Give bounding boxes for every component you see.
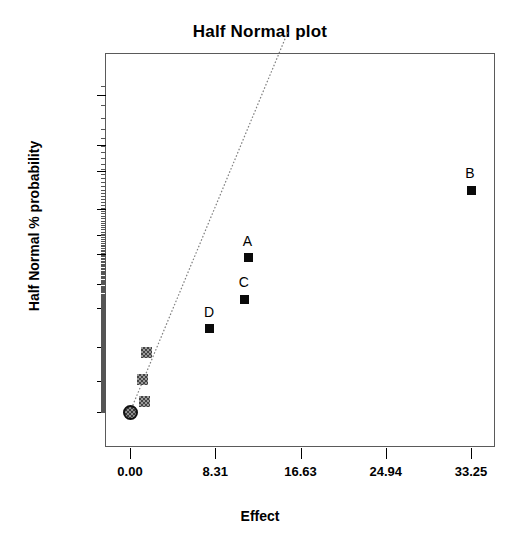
- y-minor-tick: [101, 333, 106, 334]
- y-minor-tick: [101, 323, 106, 324]
- x-tick-label: 24.94: [346, 464, 426, 479]
- y-minor-tick: [101, 152, 106, 153]
- y-minor-tick: [101, 253, 106, 254]
- y-minor-tick: [101, 294, 106, 295]
- y-minor-tick: [101, 262, 106, 263]
- y-minor-tick: [101, 264, 106, 265]
- x-tick-mark: [386, 448, 387, 459]
- y-minor-tick: [101, 314, 106, 315]
- y-minor-tick: [101, 319, 106, 320]
- y-minor-tick: [101, 178, 106, 179]
- y-minor-tick: [101, 295, 106, 296]
- y-minor-tick: [101, 265, 106, 266]
- y-minor-tick: [101, 235, 106, 236]
- data-point-label-c: C: [229, 275, 259, 289]
- y-minor-tick: [101, 309, 106, 310]
- y-minor-tick: [101, 308, 106, 309]
- x-tick-label: 16.63: [261, 464, 341, 479]
- y-minor-tick: [101, 229, 106, 230]
- y-minor-tick: [101, 291, 106, 292]
- y-minor-tick: [101, 259, 106, 260]
- y-minor-tick: [101, 232, 106, 233]
- y-minor-tick: [101, 268, 106, 269]
- y-minor-tick: [101, 306, 106, 307]
- y-minor-tick: [101, 289, 106, 290]
- y-minor-tick: [101, 256, 106, 257]
- x-tick-label: 0.00: [90, 464, 170, 479]
- y-minor-tick: [101, 118, 106, 119]
- y-minor-tick: [101, 190, 106, 191]
- y-minor-tick: [101, 292, 106, 293]
- y-minor-tick: [101, 290, 106, 291]
- y-minor-tick: [101, 288, 106, 289]
- y-minor-tick: [101, 193, 106, 194]
- y-minor-tick: [101, 146, 106, 147]
- y-minor-tick: [101, 105, 106, 106]
- y-minor-tick: [101, 307, 106, 308]
- y-minor-tick: [101, 317, 106, 318]
- y-minor-tick: [101, 138, 106, 139]
- y-minor-tick: [101, 329, 106, 330]
- reference-line-segment: [130, 32, 288, 412]
- y-minor-tick: [101, 278, 106, 279]
- data-point-c: [240, 295, 249, 304]
- y-minor-tick: [101, 327, 106, 328]
- y-minor-tick: [101, 297, 106, 298]
- y-minor-tick: [101, 332, 106, 333]
- y-minor-tick: [101, 243, 106, 244]
- y-minor-tick: [101, 277, 106, 278]
- y-minor-tick: [101, 326, 106, 327]
- y-minor-tick: [101, 86, 106, 87]
- y-minor-tick: [101, 261, 106, 262]
- y-minor-tick: [101, 223, 106, 224]
- y-minor-tick: [101, 196, 106, 197]
- x-tick-label: 33.25: [431, 464, 511, 479]
- y-minor-tick: [101, 286, 106, 287]
- y-minor-tick: [101, 216, 106, 217]
- x-tick-mark: [130, 448, 131, 459]
- y-minor-tick: [101, 250, 106, 251]
- y-minor-tick: [101, 213, 106, 214]
- data-point-unlabeled: [123, 405, 138, 420]
- data-point-label-b: B: [455, 166, 485, 180]
- y-minor-tick: [101, 316, 106, 317]
- y-minor-tick: [101, 255, 106, 256]
- y-minor-tick: [101, 301, 106, 302]
- y-minor-tick: [101, 305, 106, 306]
- y-tick-mark: [97, 95, 106, 96]
- y-minor-tick: [101, 266, 106, 267]
- y-minor-tick: [101, 221, 106, 222]
- y-minor-tick: [101, 273, 106, 274]
- y-minor-tick: [101, 321, 106, 322]
- y-minor-tick: [101, 322, 106, 323]
- data-point-d: [205, 324, 214, 333]
- y-tick-mark: [97, 171, 106, 172]
- y-minor-tick: [101, 241, 106, 242]
- y-minor-tick: [101, 218, 106, 219]
- y-minor-tick: [101, 284, 106, 285]
- data-point-unlabeled: [137, 374, 148, 385]
- data-point-unlabeled: [139, 396, 150, 407]
- y-minor-tick: [101, 274, 106, 275]
- y-minor-tick: [101, 158, 106, 159]
- y-minor-tick: [101, 227, 106, 228]
- y-minor-tick: [101, 299, 106, 300]
- y-minor-tick: [101, 321, 106, 322]
- y-minor-tick: [101, 282, 106, 283]
- y-minor-tick: [101, 271, 106, 272]
- y-minor-tick: [101, 208, 106, 209]
- y-minor-tick: [101, 312, 106, 313]
- chart-title: Half Normal plot: [0, 22, 520, 42]
- y-minor-tick: [101, 239, 106, 240]
- y-axis-title: Half Normal % probability: [26, 96, 42, 356]
- y-minor-tick: [101, 325, 106, 326]
- y-minor-tick: [101, 129, 106, 130]
- y-minor-tick: [101, 186, 106, 187]
- data-point-a: [244, 253, 253, 262]
- y-minor-tick: [101, 334, 106, 335]
- data-point-label-d: D: [194, 305, 224, 319]
- y-minor-tick: [101, 324, 106, 325]
- y-minor-tick: [101, 169, 106, 170]
- y-minor-tick: [101, 245, 106, 246]
- y-minor-tick: [101, 246, 106, 247]
